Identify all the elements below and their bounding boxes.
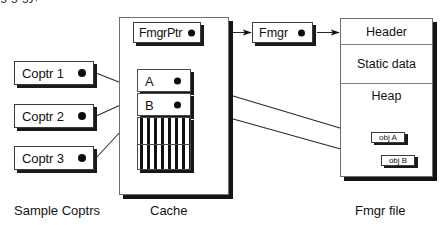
bucket-b-pointer-dot [174, 101, 181, 108]
coptr-2-box[interactable]: Coptr 2 [14, 104, 94, 128]
fmgr-ptr-label: FmgrPtr [139, 26, 182, 40]
file-segment-static-data: Static data [341, 45, 432, 84]
diagram-canvas: g g gy, Header Static dat [0, 0, 441, 225]
coptr-2-label: Coptr 2 [22, 109, 64, 124]
coptr-1-box[interactable]: Coptr 1 [14, 61, 94, 85]
coptr-1-label: Coptr 1 [22, 66, 64, 81]
cropped-caption-bleed: g g gy, [0, 0, 441, 4]
fmgr-ptr-pointer-dot [188, 29, 195, 36]
fmgr-pointer-dot [298, 29, 305, 36]
coptr-1-pointer-dot [78, 69, 86, 77]
obj-b-box[interactable]: obj B [381, 155, 415, 166]
fmgr-file-panel: Header Static data Heap [340, 18, 433, 177]
coptr-3-box[interactable]: Coptr 3 [14, 146, 94, 170]
fmgr-box[interactable]: Fmgr [252, 22, 313, 43]
bucket-a-row[interactable]: A [137, 69, 191, 92]
caption-fmgr-file: Fmgr file [355, 203, 406, 218]
bucket-a-pointer-dot [174, 77, 181, 84]
bucket-stack: A B [137, 69, 191, 171]
caption-sample-coptrs: Sample Coptrs [14, 203, 100, 218]
empty-buckets-divider [138, 144, 190, 145]
coptr-3-label: Coptr 3 [22, 151, 64, 166]
bucket-b-row[interactable]: B [137, 93, 191, 116]
bucket-b-label: B [145, 97, 154, 112]
fmgr-label: Fmgr [259, 26, 288, 40]
coptr-2-pointer-dot [78, 112, 86, 120]
file-segment-header: Header [341, 19, 432, 45]
obj-a-box[interactable]: obj A [371, 132, 405, 143]
bucket-a-label: A [145, 73, 154, 88]
fmgr-ptr-box[interactable]: FmgrPtr [133, 22, 201, 43]
empty-buckets-hatched-region [137, 117, 191, 170]
caption-cache: Cache [150, 203, 188, 218]
coptr-3-pointer-dot [78, 154, 86, 162]
